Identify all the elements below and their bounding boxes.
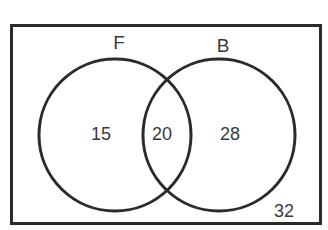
- set-f-label: F: [113, 32, 125, 53]
- intersection-count: 20: [152, 124, 172, 144]
- venn-diagram: F B 15 20 28 32: [0, 0, 328, 230]
- set-b-label: B: [217, 35, 230, 56]
- neither-count: 32: [274, 201, 294, 221]
- only-f-count: 15: [91, 124, 111, 144]
- only-b-count: 28: [220, 124, 240, 144]
